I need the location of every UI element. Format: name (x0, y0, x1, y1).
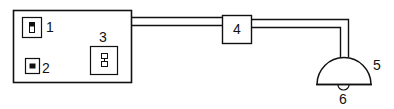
outlet-icon (91, 47, 118, 75)
cable-junction-to-lamp (252, 20, 349, 58)
label-6: 6 (339, 91, 347, 107)
push-button-icon (26, 59, 40, 74)
toggle-switch-icon (23, 18, 42, 38)
label-3: 3 (99, 29, 107, 45)
label-2: 2 (42, 60, 50, 76)
wiring-diagram: 1 2 3 4 5 6 (0, 0, 394, 109)
bulb-icon (338, 85, 349, 90)
label-5: 5 (373, 57, 381, 73)
cable-panel-to-junction (132, 18, 224, 26)
label-4: 4 (233, 21, 241, 37)
label-1: 1 (46, 19, 54, 35)
lamp-dome-icon (317, 58, 371, 85)
